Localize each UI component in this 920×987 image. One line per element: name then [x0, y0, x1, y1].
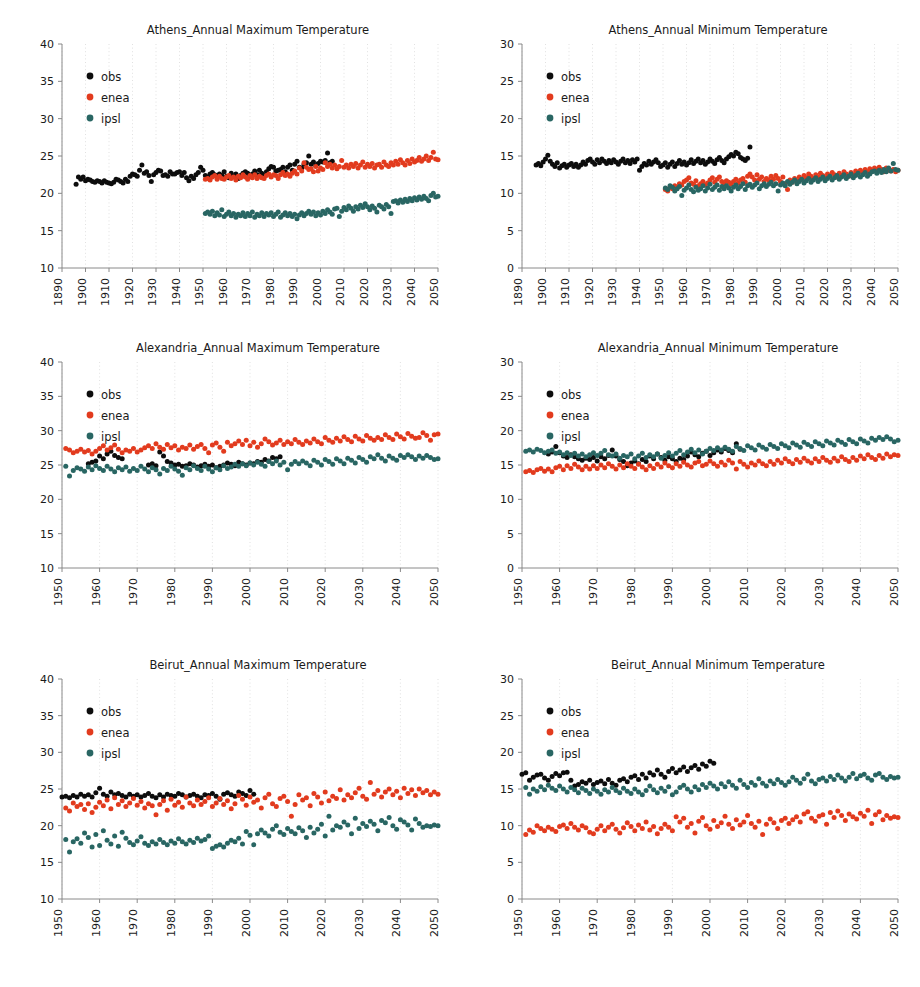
x-axis-tick-label: 1970	[700, 278, 713, 306]
data-point	[677, 184, 682, 189]
x-axis-tick-label: 2020	[818, 278, 831, 306]
data-point	[629, 791, 634, 796]
x-axis-tick-label: 1980	[165, 578, 178, 606]
data-point	[730, 460, 735, 465]
data-point	[402, 786, 407, 791]
data-point	[809, 444, 814, 449]
y-axis-tick-label: 0	[507, 562, 514, 575]
data-point	[850, 771, 855, 776]
data-point	[202, 446, 207, 451]
data-point	[896, 775, 901, 780]
x-axis-tick-label: 2050	[888, 909, 901, 937]
data-point	[662, 775, 667, 780]
x-axis-tick-label: 2010	[278, 578, 291, 606]
data-point	[843, 818, 848, 823]
data-point	[278, 438, 283, 443]
x-axis-tick-label: 1950	[52, 909, 65, 937]
x-axis-tick-label: 1890	[52, 278, 65, 306]
data-point	[255, 798, 260, 803]
data-point	[172, 443, 177, 448]
data-point	[436, 432, 441, 437]
data-point	[760, 832, 765, 837]
data-point	[557, 464, 562, 469]
data-point	[877, 809, 882, 814]
legend-label-obs: obs	[561, 705, 581, 719]
data-point	[686, 183, 691, 188]
data-point	[696, 787, 701, 792]
data-point	[717, 174, 722, 179]
data-point	[182, 170, 187, 175]
data-point	[711, 761, 716, 766]
data-point	[715, 183, 720, 188]
data-point	[550, 447, 555, 452]
data-point	[715, 464, 720, 469]
data-point	[326, 814, 331, 819]
data-point	[786, 779, 791, 784]
data-point	[689, 821, 694, 826]
x-axis-tick-label: 1950	[653, 278, 666, 306]
data-point	[565, 826, 570, 831]
data-point	[93, 832, 98, 837]
data-point	[229, 806, 234, 811]
data-point	[565, 789, 570, 794]
data-point	[546, 778, 551, 783]
data-point	[186, 178, 191, 183]
data-point	[165, 174, 170, 179]
data-point	[86, 448, 91, 453]
data-point	[250, 210, 255, 215]
data-point	[319, 800, 324, 805]
data-point	[553, 444, 558, 449]
data-point	[719, 820, 724, 825]
data-point	[120, 830, 125, 835]
data-point	[655, 831, 660, 836]
data-point	[394, 827, 399, 832]
data-point	[730, 826, 735, 831]
data-point	[191, 803, 196, 808]
data-point	[375, 452, 380, 457]
x-axis-tick-label: 1960	[90, 909, 103, 937]
data-point	[360, 438, 365, 443]
x-axis-tick-label: 1960	[217, 278, 230, 306]
data-point	[244, 829, 249, 834]
data-point	[86, 835, 91, 840]
data-point	[538, 772, 543, 777]
y-axis-tick-label: 10	[40, 893, 54, 906]
data-point	[131, 796, 136, 801]
data-point	[142, 806, 147, 811]
x-axis-tick-label: 1960	[550, 578, 563, 606]
data-point	[759, 174, 764, 179]
data-point	[820, 443, 825, 448]
data-point	[199, 468, 204, 473]
data-point	[187, 443, 192, 448]
x-axis-tick-label: 2020	[358, 278, 371, 306]
data-point	[217, 796, 222, 801]
data-point	[745, 156, 750, 161]
data-point	[740, 181, 745, 186]
data-point	[798, 460, 803, 465]
data-point	[704, 785, 709, 790]
data-point	[595, 466, 600, 471]
data-point	[394, 789, 399, 794]
data-point	[295, 159, 300, 164]
legend-marker-enea	[87, 412, 94, 419]
data-point	[206, 833, 211, 838]
data-point	[390, 823, 395, 828]
data-point	[120, 456, 125, 461]
data-point	[704, 462, 709, 467]
data-point	[576, 790, 581, 795]
data-point	[644, 467, 649, 472]
y-axis-tick-label: 30	[500, 673, 514, 686]
legend-label-enea: enea	[561, 726, 590, 740]
data-point	[745, 813, 750, 818]
data-point	[756, 776, 761, 781]
x-axis-tick-label: 1950	[193, 278, 206, 306]
data-point	[206, 450, 211, 455]
data-point	[636, 822, 641, 827]
x-axis-tick-label: 1990	[747, 278, 760, 306]
data-point	[681, 816, 686, 821]
data-point	[149, 179, 154, 184]
data-point	[640, 792, 645, 797]
legend-marker-enea	[547, 729, 554, 736]
data-point	[710, 175, 715, 180]
data-point	[157, 802, 162, 807]
